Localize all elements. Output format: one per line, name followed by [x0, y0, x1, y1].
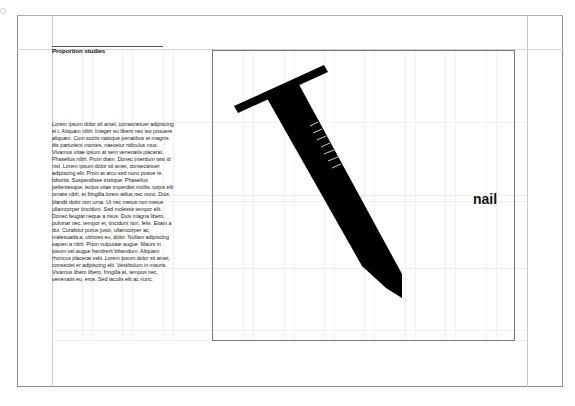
figure-label: nail: [473, 191, 497, 207]
right-margin-guide: [527, 15, 528, 387]
page-title: Proportion studies: [52, 47, 105, 54]
body-paragraph: Lorem ipsum dolor sit amet, consectetuer…: [52, 121, 176, 283]
nail-icon: [212, 50, 515, 341]
registration-mark-icon: [0, 8, 6, 14]
